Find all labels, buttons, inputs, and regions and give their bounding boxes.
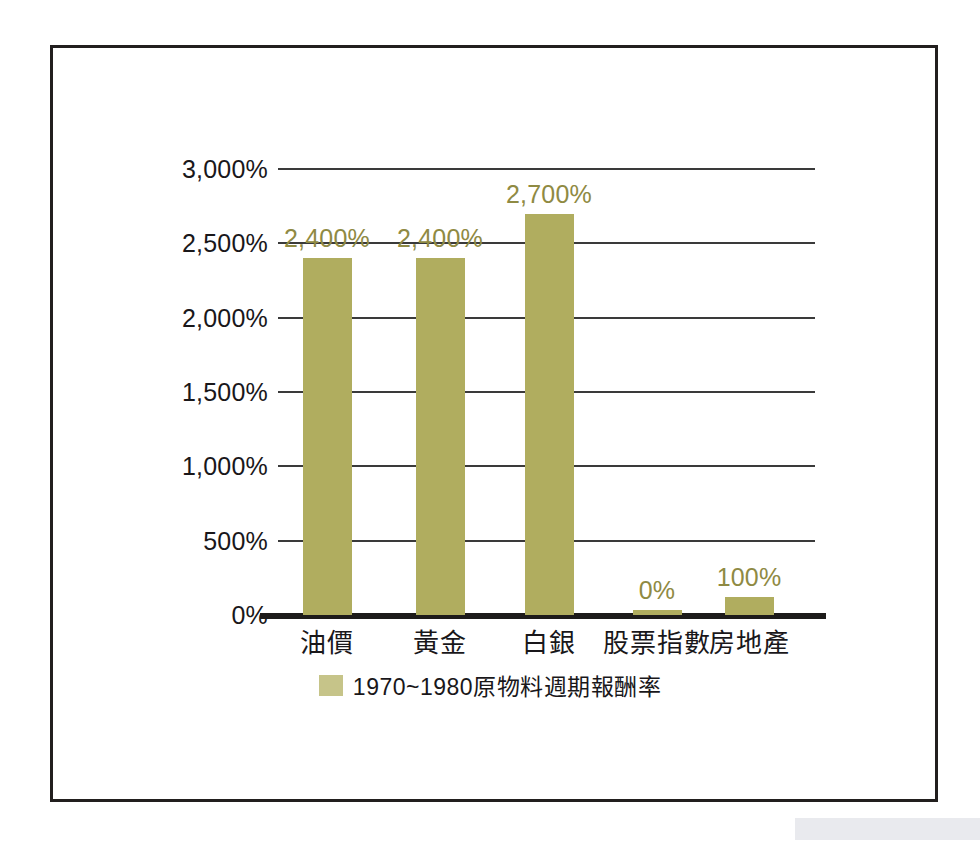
bar-value-label: 2,400% — [284, 224, 370, 253]
y-axis-tick-label: 2,000% — [182, 303, 268, 332]
bar — [725, 597, 774, 615]
y-axis-tick-labels: 0%500%1,000%1,500%2,000%2,500%3,000% — [140, 169, 268, 615]
bar — [633, 610, 682, 615]
bar — [416, 258, 465, 615]
y-axis-tick-label: 1,000% — [182, 452, 268, 481]
y-axis-tick-label: 2,500% — [182, 229, 268, 258]
bar-chart: 0%500%1,000%1,500%2,000%2,500%3,000% 197… — [0, 0, 980, 848]
y-axis-tick-label: 500% — [203, 526, 268, 555]
x-axis-category-label: 股票指數 — [603, 622, 711, 659]
x-axis-category-label: 油價 — [300, 622, 354, 659]
x-axis-category-label: 白銀 — [522, 622, 576, 659]
bar — [303, 258, 352, 615]
x-axis-category-label: 黃金 — [413, 622, 467, 659]
bar-value-label: 100% — [717, 563, 782, 592]
gridline — [278, 168, 815, 170]
y-axis-tick-label: 3,000% — [182, 155, 268, 184]
chart-legend: 1970~1980原物料週期報酬率 — [0, 668, 980, 702]
legend-label: 1970~1980原物料週期報酬率 — [353, 668, 661, 702]
bar-value-label: 2,400% — [397, 224, 483, 253]
y-axis-tick-label: 1,500% — [182, 378, 268, 407]
x-axis-category-label: 房地產 — [709, 622, 790, 659]
legend-swatch-icon — [319, 675, 343, 696]
bar-value-label: 2,700% — [506, 180, 592, 209]
bar-value-label: 0% — [639, 576, 676, 605]
bar — [525, 214, 574, 615]
